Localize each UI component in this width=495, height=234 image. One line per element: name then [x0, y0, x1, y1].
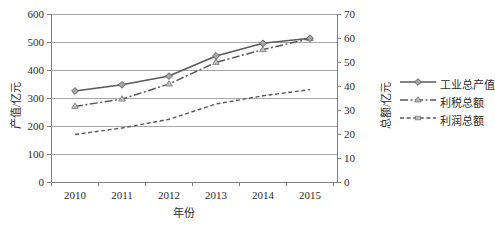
gridlines [51, 15, 337, 155]
chart-legend: 工业总产值 利税总额 利润总额 [398, 76, 495, 130]
legend-label-gongye-zongchanzhi: 工业总产值 [440, 80, 495, 91]
legend-label-lishui-zonge: 利税总额 [440, 98, 484, 109]
series-line-lirun-zonge [75, 90, 310, 135]
series-line-lishui-zonge [72, 35, 314, 108]
legend-item-gongye-zongchanzhi: 工业总产值 [398, 76, 495, 94]
series-line-gongye-zongchanzhi [72, 35, 314, 95]
series-markers-gongye-zongchanzhi [72, 35, 314, 95]
legend-key-dashdot-triangle-icon [398, 97, 434, 109]
legend-item-lishui-zonge: 利税总额 [398, 94, 495, 112]
legend-key-solid-diamond-icon [398, 79, 434, 91]
legend-label-lirun-zonge: 利润总额 [440, 116, 484, 127]
legend-item-lirun-zonge: 利润总额 [398, 112, 495, 130]
legend-key-dashed-icon [398, 115, 434, 127]
